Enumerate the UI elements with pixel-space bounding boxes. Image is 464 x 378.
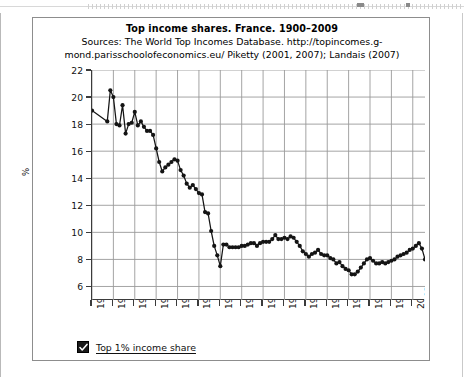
y-axis-tick-label: 20 <box>57 93 83 102</box>
data-point <box>194 187 198 191</box>
x-axis-tick-mark <box>261 300 262 306</box>
x-axis-tick-mark <box>133 300 134 306</box>
y-axis-tick-label: 18 <box>57 120 83 129</box>
ruler-tab-stop[interactable] <box>360 3 364 7</box>
data-point <box>206 211 210 215</box>
x-axis-tick-mark <box>176 300 177 306</box>
data-point <box>347 268 351 272</box>
x-axis-tick-mark <box>90 300 91 306</box>
data-point <box>136 123 140 127</box>
data-point <box>362 261 366 265</box>
data-point <box>331 257 335 261</box>
data-point <box>337 260 341 264</box>
data-point <box>316 248 320 252</box>
x-axis-tick-mark <box>155 300 156 306</box>
data-point <box>111 95 115 99</box>
document-page: Top income shares. France. 1900–2009 Sou… <box>0 13 463 377</box>
figure-container: Top income shares. France. 1900–2009 Sou… <box>32 17 430 361</box>
y-axis-tick-label: 16 <box>57 147 83 156</box>
data-point <box>139 119 143 123</box>
data-point <box>200 192 204 196</box>
data-point <box>124 131 128 135</box>
data-point <box>191 183 195 187</box>
data-point <box>148 129 152 133</box>
x-axis-tick-mark <box>390 300 391 306</box>
grid-lines <box>92 70 425 300</box>
x-axis-tick-mark <box>219 300 220 306</box>
data-point <box>157 160 161 164</box>
data-point <box>420 246 424 250</box>
x-axis-tick-mark <box>112 300 113 306</box>
data-point <box>218 264 222 268</box>
y-axis-tick-label: 10 <box>57 228 83 237</box>
x-axis-tick-mark <box>197 300 198 306</box>
data-point <box>151 133 155 137</box>
data-point <box>417 241 421 245</box>
x-axis-tick-mark <box>283 300 284 306</box>
x-axis-tick-mark <box>411 300 412 306</box>
legend-checkbox-icon[interactable] <box>77 341 89 353</box>
ruler-tab-stop[interactable] <box>406 3 410 7</box>
data-point <box>270 237 274 241</box>
data-point <box>215 253 219 257</box>
plot-area[interactable] <box>91 70 424 300</box>
data-point <box>179 168 183 172</box>
data-point <box>182 173 186 177</box>
data-point <box>142 125 146 129</box>
y-axis-tick-label: 6 <box>57 282 83 291</box>
data-point <box>130 121 134 125</box>
series-top-1pct-income-share <box>92 88 425 276</box>
y-axis-tick-label: 14 <box>57 174 83 183</box>
data-point <box>120 103 124 107</box>
data-point <box>160 169 164 173</box>
legend-label[interactable]: Top 1% income share <box>96 342 196 353</box>
y-axis-title: % <box>21 168 31 176</box>
plot-wrapper: % 6810121416182022 190019071914192119281… <box>33 18 431 362</box>
data-point <box>292 236 296 240</box>
data-point <box>108 88 112 92</box>
y-axis-tick-label: 12 <box>57 201 83 210</box>
data-point <box>359 265 363 269</box>
data-point <box>175 159 179 163</box>
data-point <box>117 123 121 127</box>
data-point <box>154 146 158 150</box>
data-point <box>298 244 302 248</box>
chart-legend[interactable]: Top 1% income share <box>77 341 196 353</box>
data-point <box>273 233 277 237</box>
y-axis-tick-label: 22 <box>57 66 83 75</box>
data-point <box>423 257 425 261</box>
horizontal-ruler[interactable] <box>0 0 464 13</box>
data-point <box>105 119 109 123</box>
y-axis-tick-label: 8 <box>57 255 83 264</box>
line-chart-svg <box>92 70 425 300</box>
x-axis-tick-mark <box>326 300 327 306</box>
data-point <box>133 110 137 114</box>
data-point <box>185 182 189 186</box>
data-point <box>295 240 299 244</box>
data-point <box>209 229 213 233</box>
data-point <box>356 269 360 273</box>
x-axis-tick-mark <box>347 300 348 306</box>
data-point <box>212 244 216 248</box>
x-axis-tick-mark <box>304 300 305 306</box>
x-axis-tick-mark <box>368 300 369 306</box>
x-axis-tick-mark <box>240 300 241 306</box>
